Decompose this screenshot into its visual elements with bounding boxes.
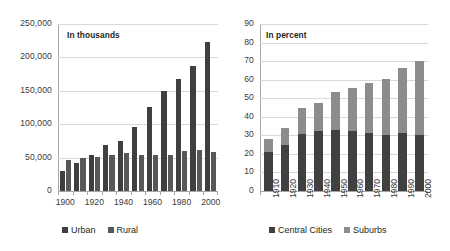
- left-bar-rural-1980: [182, 151, 187, 191]
- right-y-tick-label: 60: [225, 75, 254, 84]
- left-x-tick: [174, 192, 175, 195]
- right-gridline: [260, 24, 428, 25]
- left-x-tick: [145, 192, 146, 195]
- legend-label-suburbs: Suburbs: [353, 225, 387, 235]
- left-bar-urban-1940: [118, 141, 123, 191]
- right-bar-suburbs-1950: [331, 92, 340, 130]
- right-y-tick-label: 0: [225, 186, 254, 195]
- right-plot-annotation: In percent: [266, 30, 307, 40]
- right-bar-suburbs-1940: [314, 103, 323, 131]
- left-x-tick: [203, 192, 204, 195]
- right-x-tick-label: 1950: [340, 179, 349, 198]
- legend-swatch-suburbs: [344, 227, 350, 233]
- legend-label-central-cities: Central Cities: [278, 225, 332, 235]
- legend-item-urban[interactable]: Urban: [62, 225, 96, 235]
- left-x-tick: [131, 192, 132, 195]
- right-x-tick-label: 1990: [407, 179, 416, 198]
- left-x-tick-label: 2000: [198, 198, 224, 207]
- right-y-tick-label: 80: [225, 38, 254, 47]
- right-y-tick-label: 90: [225, 19, 254, 28]
- right-y-tick-label: 70: [225, 56, 254, 65]
- left-bar-urban-1910: [74, 163, 79, 191]
- right-bar-suburbs-1920: [281, 128, 290, 145]
- right-bar-suburbs-1990: [398, 68, 407, 133]
- legend-swatch-central-cities: [269, 227, 275, 233]
- left-bar-urban-1920: [89, 155, 94, 191]
- right-legend: Central Cities Suburbs: [269, 225, 399, 235]
- right-bar-suburbs-1980: [382, 79, 391, 135]
- right-y-tick-label: 30: [225, 130, 254, 139]
- left-gridline: [58, 57, 218, 58]
- left-x-tick: [102, 192, 103, 195]
- left-x-axis: [58, 191, 218, 192]
- legend-label-rural: Rural: [117, 225, 139, 235]
- right-bar-suburbs-1970: [365, 83, 374, 133]
- right-bar-suburbs-1960: [348, 88, 357, 131]
- left-x-tick: [87, 192, 88, 195]
- legend-label-urban: Urban: [71, 225, 96, 235]
- right-bar-suburbs-1910: [264, 139, 273, 152]
- right-x-tick-label: 1980: [390, 179, 399, 198]
- right-y-tick-label: 20: [225, 149, 254, 158]
- legend-item-rural[interactable]: Rural: [108, 225, 139, 235]
- left-bar-urban-1930: [103, 145, 108, 191]
- left-gridline: [58, 24, 218, 25]
- left-bar-rural-1930: [109, 155, 114, 191]
- left-bar-rural-1910: [80, 158, 85, 191]
- dual-chart-figure: In thousands Urban Rural 250,000200,0001…: [0, 0, 450, 251]
- legend-item-suburbs[interactable]: Suburbs: [344, 225, 387, 235]
- left-x-tick: [189, 192, 190, 195]
- left-x-tick: [58, 192, 59, 195]
- left-x-tick-label: 1980: [169, 198, 195, 207]
- left-bar-rural-2000: [211, 152, 216, 191]
- right-x-tick: [260, 192, 261, 195]
- legend-swatch-urban: [62, 227, 68, 233]
- right-x-tick-label: 1930: [306, 179, 315, 198]
- right-x-tick-label: 1910: [272, 179, 281, 198]
- legend-item-central-cities[interactable]: Central Cities: [269, 225, 332, 235]
- left-legend: Urban Rural: [62, 225, 150, 235]
- left-bar-rural-1950: [139, 155, 144, 191]
- right-gridline: [260, 61, 428, 62]
- left-x-tick: [160, 192, 161, 195]
- left-x-tick-label: 1940: [110, 198, 136, 207]
- left-bar-rural-1920: [95, 157, 100, 191]
- left-bar-rural-1960: [153, 155, 158, 191]
- left-bar-urban-1970: [161, 91, 166, 191]
- urban-rural-population-chart: In thousands Urban Rural 250,000200,0001…: [0, 0, 225, 251]
- left-bar-rural-1900: [66, 160, 71, 191]
- left-y-tick-label: 50,000: [0, 153, 52, 162]
- left-y-tick-label: 100,000: [0, 119, 52, 128]
- legend-swatch-rural: [108, 227, 114, 233]
- left-bar-urban-1950: [132, 127, 137, 191]
- right-plot-area: In percent: [260, 24, 428, 192]
- left-bar-urban-1900: [60, 171, 65, 191]
- left-bar-urban-1990: [190, 66, 195, 191]
- left-bar-urban-1960: [147, 107, 152, 191]
- right-bar-suburbs-2000: [415, 61, 424, 135]
- right-y-axis: [260, 24, 261, 192]
- left-plot-annotation: In thousands: [67, 30, 120, 40]
- left-x-tick: [73, 192, 74, 195]
- right-gridline: [260, 43, 428, 44]
- left-y-axis: [58, 24, 59, 192]
- left-bar-rural-1970: [168, 155, 173, 191]
- right-y-tick-label: 50: [225, 93, 254, 102]
- right-x-tick-label: 1920: [289, 179, 298, 198]
- right-x-tick-label: 1940: [323, 179, 332, 198]
- right-y-tick-label: 40: [225, 112, 254, 121]
- left-bar-urban-1980: [176, 79, 181, 191]
- left-x-tick-label: 1960: [140, 198, 166, 207]
- right-x-tick-label: 2000: [424, 179, 433, 198]
- left-bar-urban-2000: [205, 42, 210, 191]
- left-y-tick-label: 250,000: [0, 19, 52, 28]
- right-y-tick-label: 10: [225, 167, 254, 176]
- left-y-tick-label: 200,000: [0, 52, 52, 61]
- metropolitan-distribution-chart: In percent Central Cities Suburbs 908070…: [225, 0, 450, 251]
- left-bar-rural-1940: [124, 153, 129, 191]
- left-x-tick: [217, 192, 218, 195]
- right-bar-suburbs-1930: [298, 108, 307, 134]
- left-plot-area: In thousands: [58, 24, 218, 192]
- left-x-tick-label: 1920: [81, 198, 107, 207]
- left-x-tick: [116, 192, 117, 195]
